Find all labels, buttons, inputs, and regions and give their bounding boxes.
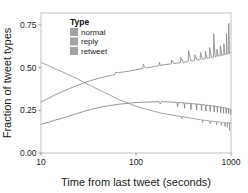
legend-label-normal[interactable]: normal [81, 28, 106, 37]
y-tick-label: 0.25 [20, 105, 37, 115]
tweet-type-fraction-chart: 0.000.250.500.75 101001000 Type normalre… [0, 0, 248, 193]
x-axis-title: Time from last tweet (seconds) [61, 176, 211, 188]
legend-label-reply[interactable]: reply [81, 37, 98, 46]
legend-title: Type [70, 17, 89, 27]
legend-label-retweet[interactable]: retweet [81, 47, 108, 56]
legend-swatch-normal [70, 28, 78, 36]
legend-swatch-retweet [70, 47, 78, 55]
x-tick-label: 100 [129, 157, 143, 167]
legend-swatch-reply [70, 38, 78, 46]
legend[interactable]: Type normalreplyretweet [66, 14, 118, 56]
chart-figure: 0.000.250.500.75 101001000 Type normalre… [0, 0, 248, 193]
y-tick-label: 0.50 [20, 63, 37, 73]
y-tick-label: 0.00 [20, 148, 37, 158]
x-tick-label: 10 [36, 157, 46, 167]
y-tick-label: 0.75 [20, 20, 37, 30]
x-tick-label: 1000 [222, 157, 241, 167]
y-axis-title: Fraction of tweet types [1, 27, 13, 138]
